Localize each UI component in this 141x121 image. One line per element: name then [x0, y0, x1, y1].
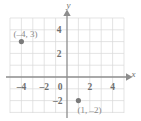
coordinate-plane-figure: –4 –2 0 2 4 4 2 –2 x y (–4, 3) (1, –2): [0, 0, 141, 121]
x-tick-label-4: 4: [110, 82, 115, 92]
point-label-a: (–4, 3): [14, 29, 38, 39]
y-tick-label-neg2: –2: [52, 96, 63, 106]
x-axis-label: x: [131, 69, 136, 79]
point-label-b: (1, –2): [78, 105, 102, 115]
y-axis-label: y: [66, 0, 71, 10]
origin-label: 0: [58, 82, 63, 92]
x-tick-label-2: 2: [87, 82, 92, 92]
y-tick-label-4: 4: [57, 25, 62, 35]
label-layer: –4 –2 0 2 4 4 2 –2 x y (–4, 3) (1, –2): [0, 0, 141, 121]
x-tick-label-neg4: –4: [16, 82, 27, 92]
x-tick-label-neg2: –2: [38, 82, 49, 92]
y-tick-label-2: 2: [57, 49, 62, 59]
